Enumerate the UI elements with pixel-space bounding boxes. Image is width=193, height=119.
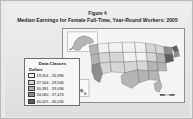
legend-swatch-4 [28,92,35,97]
legend-swatch-2 [28,80,35,85]
state-ny [164,47,173,55]
state-nm [110,62,125,73]
page-surface: Figure 4 Median Earnings for Female Full… [5,4,190,117]
map-scale-bar [160,94,175,95]
state-wv-va [156,53,166,63]
figure-title-block: Figure 4 Median Earnings for Female Full… [5,11,190,24]
legend-label-4: 34,080 - 37,473 [37,92,64,97]
legend-label-5: 40,025 - 46,030 [37,99,64,104]
state-il-in [146,52,157,62]
state-tn-ky [147,61,158,71]
state-al-ga [148,71,160,81]
state-wi-mi [145,43,156,53]
legend-label-1: 19,354 - 26,996 [37,73,64,78]
legend-swatch-3 [28,86,35,91]
legend-swatch-1 [28,73,35,78]
state-nd [122,42,136,52]
state-mn [135,42,147,52]
legend-label-2: 27,504 - 29,546 [37,80,64,85]
legend-swatch-5 [28,99,35,104]
state-co-ne [123,52,137,62]
choropleth-map [63,29,184,102]
map-frame [62,28,185,103]
figure-title: Median Earnings for Female Full-Time, Ye… [5,17,190,24]
state-ar-la [137,61,149,71]
state-id-n [98,43,110,53]
state-nc-sc [157,62,167,71]
state-nv [99,52,111,63]
state-mt [108,42,123,52]
legend-label-3: 30,391 - 33,096 [37,86,64,91]
legend-row: 40,025 - 46,030 [28,98,77,104]
map-legend: Data Classes Dollars 19,354 - 26,996 27,… [24,58,80,106]
state-ut-wy [109,52,124,62]
state-ia-mo [136,52,148,61]
figure-page: Figure 4 Median Earnings for Female Full… [0,0,193,119]
